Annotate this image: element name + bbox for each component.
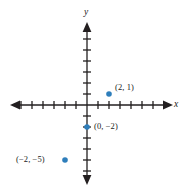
- point-marker-neg2-neg5[interactable]: [62, 157, 68, 163]
- point-marker-2-1[interactable]: [106, 91, 112, 97]
- x-axis-arrow-left: [10, 101, 20, 110]
- y-axis-arrow-down: [83, 175, 92, 185]
- point-label-neg2-neg5: (−2, −5): [16, 154, 45, 164]
- point-label-0-neg2: (0, −2): [94, 121, 118, 131]
- point-marker-0-neg2[interactable]: [84, 124, 90, 130]
- y-axis-label: y: [84, 7, 88, 17]
- x-axis-arrow-right: [163, 101, 173, 110]
- x-axis-label: x: [174, 99, 178, 109]
- coordinate-plane-figure: y x (2, 1) (0, −2) (−2, −5): [0, 0, 183, 191]
- y-axis-arrow-up: [83, 22, 92, 32]
- point-label-2-1: (2, 1): [115, 82, 134, 92]
